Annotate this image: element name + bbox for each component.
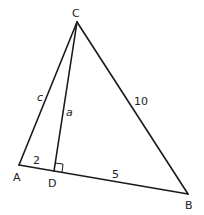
side-label-2: 2 <box>33 154 40 167</box>
side-ac <box>19 22 77 165</box>
vertex-label-a: A <box>13 171 21 184</box>
altitude-cd <box>54 22 77 171</box>
vertex-label-c: C <box>72 7 80 20</box>
triangle-diagram: C A D B c a 10 2 5 <box>0 0 204 215</box>
side-label-c: c <box>37 91 43 104</box>
side-ab <box>19 165 188 194</box>
side-cb <box>77 22 188 194</box>
side-label-10: 10 <box>134 95 148 108</box>
side-label-a: a <box>66 106 73 119</box>
vertex-label-b: B <box>185 199 193 212</box>
vertex-label-d: D <box>48 177 56 190</box>
side-label-5: 5 <box>112 168 119 181</box>
